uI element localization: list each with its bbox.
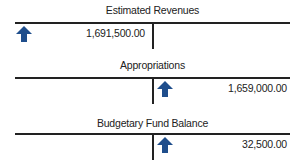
- up-arrow-icon: [157, 137, 173, 153]
- account-title: Budgetary Fund Balance: [15, 117, 290, 129]
- credit-amount: 1,659,000.00: [195, 82, 287, 94]
- t-account-budgetary-fund-balance: Budgetary Fund Balance 32,500.00: [0, 110, 305, 168]
- up-arrow-icon: [16, 26, 32, 42]
- debit-amount: 1,691,500.00: [60, 27, 145, 39]
- account-title: Estimated Revenues: [15, 4, 290, 16]
- up-arrow-icon: [157, 81, 173, 97]
- t-account-vertical-line: [152, 77, 154, 104]
- t-account-vertical-line: [152, 133, 154, 160]
- t-account-appropriations: Appropriations 1,659,000.00: [0, 55, 305, 110]
- t-account-vertical-line: [152, 22, 154, 49]
- t-account-estimated-revenues: Estimated Revenues 1,691,500.00: [0, 0, 305, 55]
- account-title: Appropriations: [15, 59, 290, 71]
- credit-amount: 32,500.00: [195, 138, 287, 150]
